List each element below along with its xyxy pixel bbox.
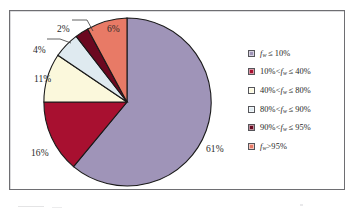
legend-item-0[interactable]: fw ≤ 10%: [248, 44, 344, 63]
pie-chart: [16, 13, 238, 191]
chart-frame: 61% 16% 11% 4% 2% 6% fw ≤ 10% 10%<fw ≤ 4…: [9, 10, 345, 190]
legend-label-3: 80%<fw ≤ 90%: [260, 105, 311, 114]
pie-label-6: 6%: [107, 24, 120, 34]
legend-label-2: 40%<fw ≤ 80%: [260, 86, 311, 95]
pie-label-4: 4%: [33, 45, 46, 55]
legend-item-1[interactable]: 10%<fw ≤ 40%: [248, 63, 344, 82]
legend-swatch-icon-0: [248, 50, 255, 57]
pie-slices: [44, 18, 211, 186]
plot-area: 61% 16% 11% 4% 2% 6% fw ≤ 10% 10%<fw ≤ 4…: [10, 11, 346, 191]
legend-label-4: 90%<fw ≤ 95%: [260, 123, 311, 132]
legend: fw ≤ 10% 10%<fw ≤ 40% 40%<fw ≤ 80% 80%<f…: [248, 44, 344, 156]
pie-label-11: 11%: [34, 74, 51, 84]
figure-root: 61% 16% 11% 4% 2% 6% fw ≤ 10% 10%<fw ≤ 4…: [0, 0, 356, 218]
legend-swatch-icon-4: [248, 124, 255, 131]
legend-swatch-icon-1: [248, 68, 255, 75]
scan-speckle: [52, 207, 62, 208]
legend-swatch-icon-3: [248, 106, 255, 113]
legend-item-5[interactable]: fw>95%: [248, 137, 344, 156]
legend-item-4[interactable]: 90%<fw ≤ 95%: [248, 118, 344, 137]
pie-label-16: 16%: [31, 148, 49, 158]
scan-speckle: [18, 206, 44, 207]
leader-line-4: [47, 39, 71, 43]
legend-swatch-icon-5: [248, 143, 255, 150]
legend-item-2[interactable]: 40%<fw ≤ 80%: [248, 81, 344, 100]
legend-swatch-icon-2: [248, 87, 255, 94]
legend-label-5: fw>95%: [260, 142, 287, 151]
legend-label-0: fw ≤ 10%: [260, 49, 290, 58]
legend-label-1: 10%<fw ≤ 40%: [260, 67, 311, 76]
pie-label-61: 61%: [206, 144, 224, 154]
pie-label-2: 2%: [57, 24, 70, 34]
legend-item-3[interactable]: 80%<fw ≤ 90%: [248, 100, 344, 119]
scan-speckle: [300, 204, 303, 206]
